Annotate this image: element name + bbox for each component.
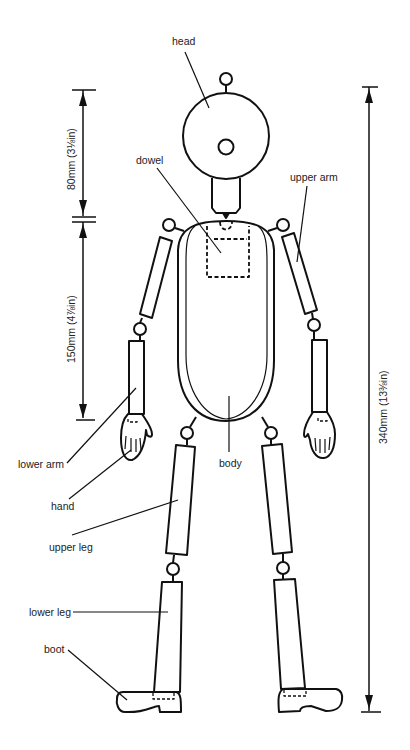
label-boot: boot: [44, 644, 64, 655]
label-hand: hand: [51, 501, 74, 512]
label-lower-leg: lower leg: [29, 607, 71, 618]
right-arm: [268, 219, 335, 458]
label-upper-leg: upper leg: [49, 542, 93, 553]
dowel: [207, 222, 249, 277]
left-leg: [117, 417, 196, 712]
head: [183, 73, 269, 218]
right-leg: [262, 417, 342, 712]
leader-lines: [67, 52, 307, 700]
dimension-label-body: 150mm (4⅞in): [66, 295, 77, 363]
label-lower-arm: lower arm: [18, 459, 64, 470]
body: [178, 221, 274, 421]
dimension-body: [76, 222, 95, 420]
left-arm: [121, 219, 184, 460]
dimension-label-total: 340mm (13⅜in): [378, 370, 389, 444]
label-upper-arm: upper arm: [290, 172, 338, 183]
puppet-diagram: head dowel upper arm lower arm body hand…: [0, 0, 410, 750]
label-head: head: [172, 36, 195, 47]
label-dowel: dowel: [136, 155, 163, 166]
label-body: body: [219, 458, 242, 469]
dimension-label-head: 80mm (3⅛in): [66, 128, 77, 190]
